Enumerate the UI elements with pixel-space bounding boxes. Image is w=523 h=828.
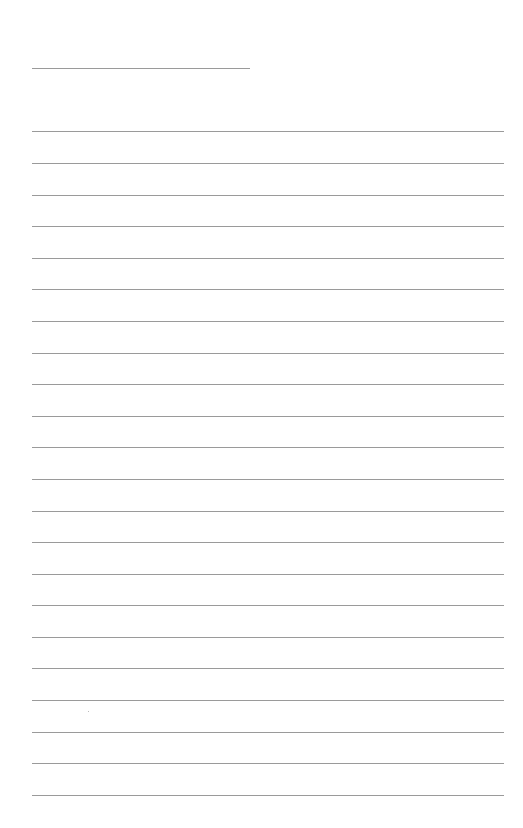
ruled-line [32,195,504,196]
ruled-line [32,258,504,259]
ruled-line [32,384,504,385]
ruled-line [32,131,504,132]
ruled-line [32,795,504,796]
ruled-line [32,289,504,290]
ruled-line [32,637,504,638]
ruled-line [32,226,504,227]
ruled-line [32,163,504,164]
ruled-line [32,668,504,669]
ruled-line [32,416,504,417]
ruled-line [32,574,504,575]
header-line [32,68,250,69]
ruled-line [32,542,504,543]
ruled-line [32,700,504,701]
speck [88,711,89,712]
ruled-line [32,447,504,448]
ruled-line [32,605,504,606]
ruled-line [32,353,504,354]
ruled-line [32,511,504,512]
ruled-line [32,763,504,764]
ruled-line [32,732,504,733]
ruled-line [32,479,504,480]
ruled-line [32,321,504,322]
